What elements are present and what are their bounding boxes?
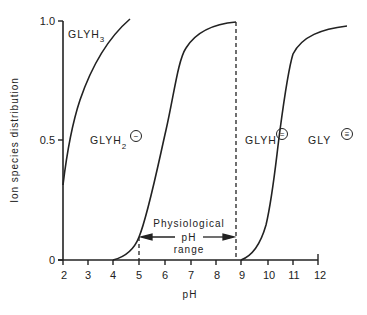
svg-text:=: = [280, 130, 285, 139]
label-glyh3: GLYH3 [68, 28, 105, 44]
y-tick-label-0: 0 [49, 254, 55, 266]
x-tick-5: 5 [136, 269, 142, 281]
svg-text:−: − [134, 132, 139, 141]
label-glyh2-minus: GLYH2 − [90, 131, 142, 152]
x-axis-title: pH [183, 289, 198, 300]
svg-text:GLYH2: GLYH2 [90, 134, 127, 151]
y-tick-label-1: 1.0 [40, 15, 55, 27]
physio-label-line2: pH [182, 232, 197, 243]
x-tick-11: 11 [288, 269, 299, 281]
curve-glyh3-glyh2 [63, 19, 130, 185]
x-tick-4: 4 [110, 269, 116, 281]
physio-label-line3: range [174, 244, 205, 255]
x-tick-2: 2 [61, 269, 67, 281]
x-tick-labels: 2 3 4 5 6 7 8 9 10 11 12 [61, 269, 326, 281]
label-gly-triple-minus: GLY ≡ [308, 129, 353, 147]
label-glyh-double-minus: GLYH = [245, 129, 288, 147]
physio-label-line1: Physiological [153, 218, 224, 229]
x-tick-9: 9 [239, 269, 245, 281]
x-tick-6: 6 [162, 269, 168, 281]
svg-text:GLYH3: GLYH3 [68, 28, 105, 44]
y-axis-title: Ion species distribution [9, 77, 20, 203]
svg-text:GLYH: GLYH [245, 134, 277, 146]
svg-text:≡: ≡ [345, 130, 350, 139]
y-tick-label-0.5: 0.5 [40, 134, 55, 146]
x-tick-10: 10 [263, 269, 275, 281]
svg-text:GLY: GLY [308, 134, 331, 146]
x-tick-8: 8 [214, 269, 220, 281]
x-tick-3: 3 [85, 269, 91, 281]
x-tick-7: 7 [188, 269, 194, 281]
ion-distribution-chart: 1.0 0.5 0 2 3 4 5 6 7 8 9 10 11 12 pH Io… [0, 0, 367, 315]
x-tick-12: 12 [314, 269, 326, 281]
